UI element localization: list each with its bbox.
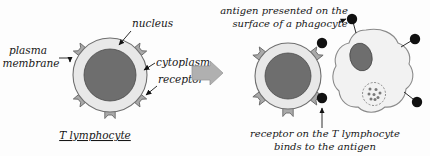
diagram-canvas: plasma membrane nucleus cytoplasm recept… bbox=[0, 0, 430, 156]
plasma-membrane-leader-line bbox=[59, 58, 70, 62]
bound-antigen-lower bbox=[317, 93, 327, 103]
nucleus-label: nucleus bbox=[132, 17, 174, 29]
bound-antigen-upper bbox=[317, 38, 327, 48]
plasma-membrane-label-line2: membrane bbox=[2, 57, 59, 69]
plasma-membrane-label-line1: plasma bbox=[9, 44, 47, 56]
binding-caption-line2: binds to the antigen bbox=[274, 141, 376, 152]
surface-antigen-right-upper bbox=[401, 34, 420, 47]
surface-antigen-right-lower bbox=[404, 92, 422, 107]
receptor-leader-line bbox=[146, 86, 157, 95]
surface-antigen-top bbox=[347, 14, 357, 33]
antigen-caption-line2: surface of a phagocyte bbox=[232, 18, 347, 29]
left-t-lymphocyte-cell bbox=[73, 38, 147, 119]
nucleus-shape bbox=[84, 49, 136, 101]
binding-caption-line1: receptor on the T lymphocyte bbox=[250, 128, 400, 139]
phagocyte-membrane bbox=[333, 29, 413, 112]
left-cell-caption: T lymphocyte bbox=[59, 129, 131, 141]
immunology-diagram: plasma membrane nucleus cytoplasm recept… bbox=[0, 0, 430, 156]
antigen-caption-line1: antigen presented on the bbox=[220, 5, 348, 16]
right-t-lymphocyte-cell bbox=[253, 38, 327, 117]
right-nucleus-shape bbox=[265, 53, 311, 99]
